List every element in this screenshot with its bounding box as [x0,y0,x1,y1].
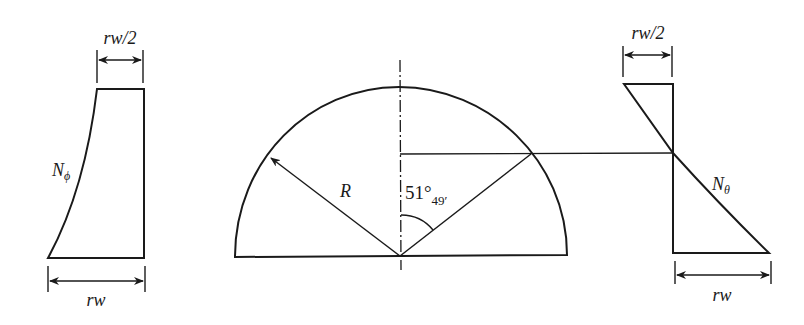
n-theta-lower [673,153,769,253]
n-theta-upper [624,84,673,153]
top-dimension-label: rw/2 [631,23,664,43]
n-theta-label: Nθ [711,174,730,197]
bottom-dimension-label: rw [86,290,105,310]
n-phi-diagram: rw/2 rw Nϕ [48,28,145,310]
dome-force-diagram: rw/2 rw Nϕ R 51°49′ rw/2 rw [0,0,804,325]
radius-arrow [271,158,400,256]
radius-label: R [339,181,351,201]
angle-line [400,154,531,256]
projection-line [400,153,673,154]
center-axis [400,60,401,270]
angle-arc [401,215,433,230]
dome-section: R 51°49′ [235,60,673,270]
bottom-dimension-label: rw [712,285,731,305]
angle-label: 51°49′ [405,182,448,208]
n-theta-diagram: rw/2 rw Nθ [623,23,771,305]
n-phi-label: Nϕ [51,160,70,183]
top-dimension-label: rw/2 [103,28,136,48]
